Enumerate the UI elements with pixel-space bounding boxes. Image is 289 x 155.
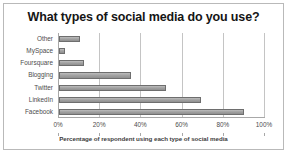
x-tick-label: 20% [93,121,106,128]
bar-row [59,69,131,81]
bar-series [58,33,265,118]
bar-foursquare [59,60,84,66]
bar-row [59,57,84,69]
bar-linkedin [59,97,201,103]
bar-twitter [59,85,166,91]
y-category-label-foursquare: Foursquare [20,57,53,69]
y-category-label-linkedin: LinkedIn [29,94,53,106]
plot-area [58,33,265,118]
y-category-label-myspace: MySpace [26,45,53,57]
y-category-label-other: Other [37,33,53,45]
bar-row [59,94,201,106]
chart-title: What types of social media do you use? [4,10,283,24]
x-axis-tick-labels: 0%20%40%60%80%100% [58,121,265,133]
bar-row [59,33,80,45]
bar-row [59,82,166,94]
bar-myspace [59,48,65,54]
x-tick-label: 40% [134,121,147,128]
bar-row [59,106,244,118]
chart-container: What types of social media do you use? F… [3,3,284,150]
x-axis-title: Percentage of respondent using each type… [4,135,283,142]
y-category-label-facebook: Facebook [25,106,53,118]
bar-other [59,36,80,42]
y-axis-category-labels: FacebookLinkedInTwitterBloggingFoursquar… [4,33,56,118]
y-category-label-blogging: Blogging [28,69,53,81]
x-tick-label: 0% [53,121,62,128]
x-tick-label: 80% [216,121,229,128]
y-category-label-twitter: Twitter [34,82,53,94]
bar-facebook [59,109,244,115]
bar-row [59,45,65,57]
bar-blogging [59,72,131,78]
x-tick-label: 100% [256,121,272,128]
x-tick-label: 60% [175,121,188,128]
